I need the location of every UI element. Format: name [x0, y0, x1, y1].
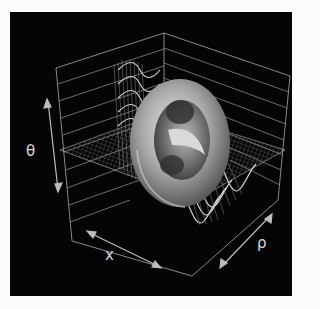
3d-scene: [0, 0, 320, 309]
theta-axis-label: θ: [26, 144, 35, 159]
theta-axis-arrow: [44, 99, 62, 192]
rho-axis-label: ρ: [257, 236, 267, 251]
torus: [130, 79, 230, 207]
x-axis-arrow: [87, 231, 161, 268]
x-axis-label: x: [105, 248, 114, 263]
